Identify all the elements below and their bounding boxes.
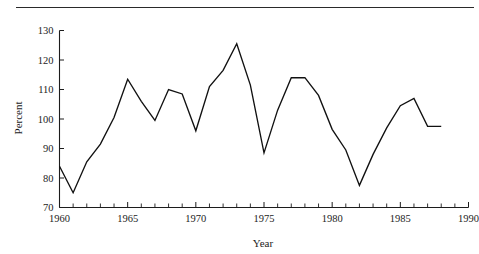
line-chart: 708090100110120130 Percent 1960196519701… xyxy=(0,0,479,254)
x-axis: 1960196519701975198019851990 Year xyxy=(49,202,479,249)
x-tick-label: 1965 xyxy=(117,213,138,224)
y-axis-title: Percent xyxy=(12,102,24,135)
y-tick-label: 90 xyxy=(43,143,54,154)
x-tick-label: 1990 xyxy=(458,213,479,224)
x-tick-label: 1960 xyxy=(49,213,70,224)
figure-root: 708090100110120130 Percent 1960196519701… xyxy=(0,0,479,254)
y-axis-ticks xyxy=(60,31,65,208)
data-series-line xyxy=(60,44,442,193)
y-tick-label: 80 xyxy=(43,173,54,184)
x-tick-label: 1975 xyxy=(254,213,275,224)
y-tick-label: 120 xyxy=(38,55,54,66)
y-axis-tick-labels: 708090100110120130 xyxy=(38,25,54,213)
y-tick-label: 110 xyxy=(38,84,53,95)
x-axis-title: Year xyxy=(253,237,274,249)
y-axis: 708090100110120130 Percent xyxy=(12,25,64,213)
x-axis-major-ticks xyxy=(60,202,469,208)
y-tick-label: 100 xyxy=(38,114,54,125)
x-axis-tick-labels: 1960196519701975198019851990 xyxy=(49,213,479,224)
x-tick-label: 1970 xyxy=(185,213,206,224)
x-tick-label: 1985 xyxy=(390,213,411,224)
y-tick-label: 130 xyxy=(38,25,54,36)
x-tick-label: 1980 xyxy=(322,213,343,224)
